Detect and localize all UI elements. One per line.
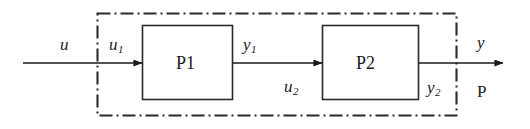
signal-label-u2: u2 <box>284 78 299 97</box>
subscript-1: 1 <box>251 43 257 55</box>
block-label-p2: P2 <box>356 54 375 72</box>
signal-label-u: u <box>60 36 69 53</box>
block-diagram-figure: u u1 P1 y1 u2 P2 y2 y P <box>0 0 530 129</box>
signal-label-y: y <box>477 34 485 51</box>
block-label-p1: P1 <box>176 54 195 72</box>
signal-label-y1: y1 <box>243 36 257 55</box>
plant-label-p: P <box>477 83 486 100</box>
subscript-1: 1 <box>118 43 124 55</box>
signal-label-u1: u1 <box>109 36 124 55</box>
signal-label-y2: y2 <box>427 79 441 98</box>
subscript-2: 2 <box>293 85 299 97</box>
subscript-2: 2 <box>435 86 441 98</box>
diagram-canvas <box>0 0 530 129</box>
